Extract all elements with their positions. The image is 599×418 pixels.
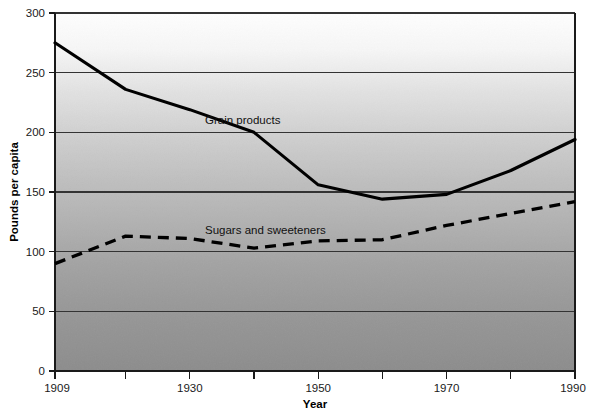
y-axis-title: Pounds per capita xyxy=(8,142,20,242)
x-tick-label-1970: 1970 xyxy=(434,382,460,394)
series-label-grain-products: Grain products xyxy=(205,114,281,126)
line-chart: 300 250 200 150 100 50 0 Pounds per capi… xyxy=(0,0,599,418)
x-tick-label-1930: 1930 xyxy=(177,382,203,394)
y-tick-label-250: 250 xyxy=(26,67,45,79)
y-tick-label-200: 200 xyxy=(26,126,45,138)
x-axis-title: Year xyxy=(303,398,328,410)
y-tick-label-150: 150 xyxy=(26,186,45,198)
x-tick-label-1909: 1909 xyxy=(44,382,70,394)
figure-container: 300 250 200 150 100 50 0 Pounds per capi… xyxy=(0,0,599,418)
x-tick-label-1990: 1990 xyxy=(560,382,586,394)
y-tick-label-0: 0 xyxy=(39,365,45,377)
y-axis-tick-labels: 300 250 200 150 100 50 0 xyxy=(26,7,45,377)
x-tick-label-1950: 1950 xyxy=(305,382,331,394)
y-tick-label-50: 50 xyxy=(32,305,45,317)
x-axis-ticks xyxy=(55,371,575,379)
y-axis-ticks xyxy=(49,13,55,371)
y-tick-label-100: 100 xyxy=(26,246,45,258)
y-tick-label-300: 300 xyxy=(26,7,45,19)
series-label-sugars-and-sweeteners: Sugars and sweeteners xyxy=(205,224,326,236)
x-axis-tick-labels: 1909 1930 1950 1970 1990 xyxy=(44,382,586,394)
